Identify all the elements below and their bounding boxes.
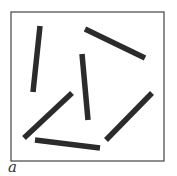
bar-5 xyxy=(35,140,100,148)
figure-canvas xyxy=(0,0,177,176)
bar-4 xyxy=(24,93,72,138)
panel-label: a xyxy=(8,160,17,175)
bars-group xyxy=(24,26,152,148)
bar-6 xyxy=(106,93,152,140)
bar-2 xyxy=(85,29,145,58)
bar-1 xyxy=(33,26,40,92)
bar-3 xyxy=(82,54,88,120)
